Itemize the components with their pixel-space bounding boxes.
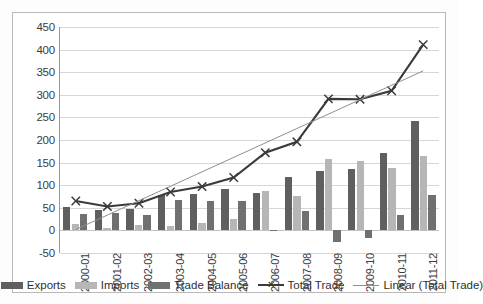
bar-imports (262, 191, 269, 231)
bar-trade-balance (238, 201, 245, 230)
y-tick-label: 200 (36, 134, 55, 146)
legend-label: Exports (27, 279, 66, 291)
bar-group (250, 27, 282, 253)
bar-group (377, 27, 409, 253)
legend-marker-line-icon: ✕ (258, 280, 284, 290)
bar-group (92, 27, 124, 253)
bar-group (282, 27, 314, 253)
legend-swatch-icon (1, 282, 23, 289)
chart-legend: ExportsImportsTrade Balance✕Total TradeL… (27, 275, 457, 295)
legend-item[interactable]: Linear (Total Trade) (353, 279, 483, 291)
bar-imports (325, 159, 332, 230)
bar-exports (411, 121, 418, 231)
bar-exports (190, 194, 197, 231)
bar-trade-balance (428, 195, 435, 230)
bar-group (60, 27, 92, 253)
bar-trade-balance (80, 214, 87, 231)
bar-trade-balance (143, 215, 150, 231)
bar-trade-balance (175, 200, 182, 230)
bar-trade-balance (112, 213, 119, 231)
bar-imports (230, 219, 237, 231)
bar-imports (420, 156, 427, 231)
legend-label: Total Trade (288, 279, 345, 291)
bar-exports (221, 189, 228, 230)
bar-exports (95, 210, 102, 230)
y-tick-label: 50 (43, 202, 55, 214)
bar-group (313, 27, 345, 253)
legend-swatch-icon (75, 282, 97, 289)
legend-item[interactable]: ✕Total Trade (258, 279, 345, 291)
bar-exports (285, 177, 292, 231)
bar-imports (103, 228, 110, 231)
y-tick-label: 350 (36, 66, 55, 78)
legend-item[interactable]: Imports (75, 279, 139, 291)
bar-imports (167, 226, 174, 231)
bar-imports (72, 224, 79, 230)
bar-trade-balance (365, 230, 372, 238)
bar-exports (253, 193, 260, 231)
legend-line-icon (353, 280, 379, 290)
bar-exports (348, 169, 355, 230)
bar-trade-balance (302, 211, 309, 230)
bar-imports (293, 196, 300, 231)
bar-group (345, 27, 377, 253)
bar-group (408, 27, 440, 253)
bar-imports (198, 223, 205, 230)
bar-group (218, 27, 250, 253)
bar-imports (357, 161, 364, 231)
bar-trade-balance (207, 201, 214, 231)
legend-label: Imports (101, 279, 139, 291)
chart-frame: 450400350300250200150100500-50 2000-0120… (12, 12, 446, 293)
y-tick-label: 0 (49, 224, 55, 236)
bar-exports (380, 153, 387, 231)
bar-imports (135, 225, 142, 230)
bar-trade-balance (333, 230, 340, 241)
y-tick-label: 300 (36, 89, 55, 101)
bar-group (155, 27, 187, 253)
bar-exports (63, 207, 70, 230)
y-tick-label: -50 (39, 247, 55, 259)
plot-area: 450400350300250200150100500-50 (59, 27, 439, 253)
bar-exports (126, 209, 133, 230)
legend-swatch-icon (148, 282, 170, 289)
bar-trade-balance (270, 230, 277, 231)
y-tick-label: 150 (36, 157, 55, 169)
y-tick-label: 400 (36, 44, 55, 56)
bar-exports (316, 171, 323, 230)
y-tick-label: 450 (36, 21, 55, 33)
bar-imports (388, 168, 395, 230)
legend-item[interactable]: Exports (1, 279, 66, 291)
legend-label: Trade Balance (174, 279, 248, 291)
bar-series-group (60, 27, 439, 253)
bar-group (187, 27, 219, 253)
bar-group (123, 27, 155, 253)
y-tick-label: 100 (36, 179, 55, 191)
y-tick-label: 250 (36, 111, 55, 123)
legend-item[interactable]: Trade Balance (148, 279, 248, 291)
legend-label: Linear (Total Trade) (383, 279, 483, 291)
bar-exports (158, 195, 165, 231)
bar-trade-balance (397, 215, 404, 230)
